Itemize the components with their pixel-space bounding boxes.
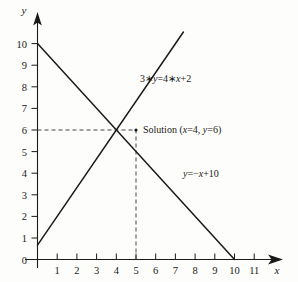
eq1-rhs-const: 2 (186, 73, 191, 84)
y-tick-label: 1 (22, 233, 27, 244)
y-axis-label: y (21, 4, 27, 16)
line-y-equals-minus-x-plus-10 (38, 44, 235, 260)
guide-lines-group (38, 130, 137, 260)
eq1-op1: ∗ (145, 73, 153, 84)
y-tick-label: 5 (22, 147, 27, 158)
x-tick-label: 10 (229, 265, 240, 276)
y-tick-label: 3 (22, 190, 27, 201)
solution-point-marker (134, 128, 137, 131)
eq1-op2: ∗ (168, 73, 176, 84)
y-tick-label: 10 (17, 39, 28, 50)
x-tick-labels-group: 1 2 3 4 5 6 7 8 9 10 11 (55, 265, 260, 276)
x-tick-label: 1 (55, 265, 60, 276)
equation-label-line2: y=−x+10 (182, 168, 219, 179)
y-tick-label: 4 (22, 168, 28, 179)
x-axis-ticks (57, 254, 254, 260)
x-tick-label: 9 (212, 265, 217, 276)
plot-canvas: y x 10 9 8 7 6 5 4 3 2 1 0 1 2 3 4 5 6 7… (0, 0, 298, 282)
x-axis-label: x (274, 264, 280, 276)
y-tick-label: 6 (22, 125, 27, 136)
solution-annotation-label: Solution (x=4, y=6) (143, 124, 221, 136)
y-axis-ticks (32, 44, 38, 238)
solution-prefix: Solution ( (143, 124, 183, 136)
y-tick-labels-group: 10 9 8 7 6 5 4 3 2 1 0 (17, 39, 28, 266)
x-tick-label: 8 (192, 265, 197, 276)
x-tick-label: 3 (94, 265, 99, 276)
line-3y-equals-4x-plus-2 (38, 32, 184, 245)
x-tick-label: 6 (153, 265, 158, 276)
x-tick-label: 11 (249, 265, 259, 276)
y-tick-label: 7 (22, 103, 27, 114)
x-tick-label: 4 (114, 265, 120, 276)
y-tick-label: 9 (22, 60, 27, 71)
y-tick-label: 8 (22, 82, 27, 93)
eq2-rhs-const: 10 (209, 168, 219, 179)
y-tick-label: 2 (22, 211, 27, 222)
axes-group (25, 12, 283, 268)
x-tick-label: 7 (173, 265, 178, 276)
y-tick-label: 0 (22, 255, 27, 266)
solution-suffix: ) (218, 124, 221, 136)
x-tick-label: 2 (74, 265, 79, 276)
linear-system-graph: y x 10 9 8 7 6 5 4 3 2 1 0 1 2 3 4 5 6 7… (0, 0, 298, 282)
equation-label-line1: 3∗y=4∗x+2 (140, 73, 191, 84)
x-tick-label: 5 (133, 265, 138, 276)
